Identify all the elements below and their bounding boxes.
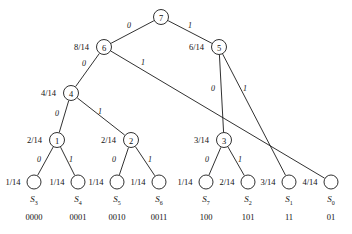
leaf-codeword-l2: 0010 xyxy=(109,212,126,222)
internal-node-label-n5: 5 xyxy=(217,43,221,53)
tree-edge-e-4-1 xyxy=(59,101,68,133)
leaf-symbol-l0: S3 xyxy=(30,194,38,206)
edge-bit-label-e-6-l7: 1 xyxy=(141,58,145,67)
tree-edge-e-6-l7 xyxy=(111,51,325,178)
leaf-node-circle-l0[interactable] xyxy=(27,175,41,189)
edge-bit-label-e-6-4: 0 xyxy=(82,59,86,68)
edge-bit-label-e-4-2: 1 xyxy=(98,107,102,116)
edge-bit-label-e-7-5: 1 xyxy=(188,21,192,30)
leaf-symbol-l4: S7 xyxy=(202,194,210,206)
leaf-node-circle-l6[interactable] xyxy=(282,175,296,189)
leaf-weight-l2: 1/14 xyxy=(88,177,103,187)
tree-edges-layer xyxy=(0,0,352,234)
tree-edge-e-4-2 xyxy=(77,98,124,135)
leaf-weight-l7: 4/14 xyxy=(302,177,317,187)
tree-edge-e-2-l2 xyxy=(119,148,128,175)
leaf-codeword-l5: 101 xyxy=(242,212,255,222)
leaf-codeword-l7: 01 xyxy=(327,212,336,222)
leaf-node-circle-l5[interactable] xyxy=(241,175,255,189)
edge-bit-label-e-1-l0: 0 xyxy=(37,155,41,164)
tree-edge-e-7-6 xyxy=(111,21,154,44)
leaf-weight-l4: 1/14 xyxy=(177,177,192,187)
leaf-node-circle-l3[interactable] xyxy=(152,175,166,189)
edge-bit-label-e-2-l2: 0 xyxy=(112,155,116,164)
leaf-symbol-l5: S2 xyxy=(244,194,252,206)
leaf-node-circle-l4[interactable] xyxy=(199,175,213,189)
leaf-weight-l0: 1/14 xyxy=(5,177,20,187)
tree-edge-e-5-l6 xyxy=(223,54,286,175)
node-weight-n3: 3/14 xyxy=(194,135,209,145)
edge-bit-label-e-2-l3: 1 xyxy=(148,155,152,164)
edge-bit-label-e-4-1: 0 xyxy=(55,109,59,118)
leaf-weight-l6: 3/14 xyxy=(260,177,275,187)
internal-node-label-n6: 6 xyxy=(102,43,106,53)
leaf-weight-l1: 1/14 xyxy=(49,177,64,187)
tree-edge-e-6-4 xyxy=(76,54,100,87)
leaf-codeword-l3: 0011 xyxy=(151,212,168,222)
leaf-symbol-l1: S4 xyxy=(74,194,82,206)
leaf-weight-l5: 2/14 xyxy=(219,177,234,187)
leaf-symbol-l6: S1 xyxy=(285,194,293,206)
node-weight-n4: 4/14 xyxy=(41,88,56,98)
leaf-codeword-l6: 11 xyxy=(285,212,293,222)
edge-bit-label-e-7-6: 0 xyxy=(127,21,131,30)
leaf-node-circle-l7[interactable] xyxy=(324,175,338,189)
tree-edge-e-3-l4 xyxy=(209,147,221,175)
edge-bit-label-e-3-l4: 0 xyxy=(205,155,209,164)
node-weight-n5: 6/14 xyxy=(189,42,204,52)
edge-bit-label-e-3-l5: 1 xyxy=(238,155,242,164)
leaf-symbol-l7: S0 xyxy=(327,194,335,206)
internal-node-label-n4: 4 xyxy=(69,89,73,99)
leaf-weight-l3: 1/14 xyxy=(130,177,145,187)
edge-bit-label-e-1-l1: 1 xyxy=(69,155,73,164)
internal-node-label-n3: 3 xyxy=(222,136,226,146)
node-weight-n2: 2/14 xyxy=(101,135,116,145)
leaf-symbol-l2: S5 xyxy=(113,194,121,206)
huffman-tree-figure: 01010101010101768/1456/1444/1412/1422/14… xyxy=(0,0,352,234)
internal-node-label-n2: 2 xyxy=(129,136,133,146)
leaf-symbol-l3: S6 xyxy=(155,194,163,206)
leaf-codeword-l0: 0000 xyxy=(26,212,43,222)
internal-node-label-n7: 7 xyxy=(159,13,163,23)
node-weight-n6: 8/14 xyxy=(74,42,89,52)
edge-bit-label-e-5-l6: 1 xyxy=(243,84,247,93)
leaf-codeword-l4: 100 xyxy=(200,212,213,222)
node-weight-n1: 2/14 xyxy=(27,135,42,145)
tree-edge-e-5-3 xyxy=(219,55,223,132)
edge-bit-label-e-5-3: 0 xyxy=(211,84,215,93)
internal-node-label-n1: 1 xyxy=(55,136,59,146)
leaf-codeword-l1: 0001 xyxy=(70,212,87,222)
leaf-node-circle-l1[interactable] xyxy=(71,175,85,189)
leaf-node-circle-l2[interactable] xyxy=(110,175,124,189)
